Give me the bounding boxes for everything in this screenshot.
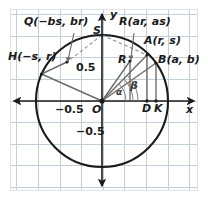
tick-label-x-negative: −0.5 [55,104,84,115]
label-point-R-top: R(ar, as) [119,16,171,27]
segment-O-to-B [102,63,156,101]
label-point-A: A(r, s) [144,35,181,46]
unit-circle-figure: Q(−bs, br) S R(ar, as) A(r, s) H(−s, r) … [0,0,208,199]
radius-segments [42,55,157,101]
figure-canvas [0,0,208,199]
point-markers [40,33,158,103]
point-H [40,72,43,75]
label-point-S: S [93,25,101,36]
label-axis-y: y [110,9,117,20]
label-point-K: K [154,103,163,114]
label-point-D: D [142,103,151,114]
tick-label-y-positive: 0.5 [76,62,96,73]
label-axis-x: x [186,104,193,115]
point-A [145,53,148,56]
label-point-H: H(−s, r) [8,51,56,62]
segment-O-to-H [42,74,103,101]
label-point-R: R [118,54,126,65]
leader-Q [68,33,74,60]
label-angle-alpha: α [116,88,122,97]
tick-label-y-negative: −0.5 [76,126,105,137]
label-point-B: B(a, b) [158,54,200,65]
label-origin-O: O [92,104,101,115]
label-point-Q: Q(−bs, br) [24,16,88,27]
label-angle-beta: β [130,80,138,91]
leader-R-top [131,33,134,58]
